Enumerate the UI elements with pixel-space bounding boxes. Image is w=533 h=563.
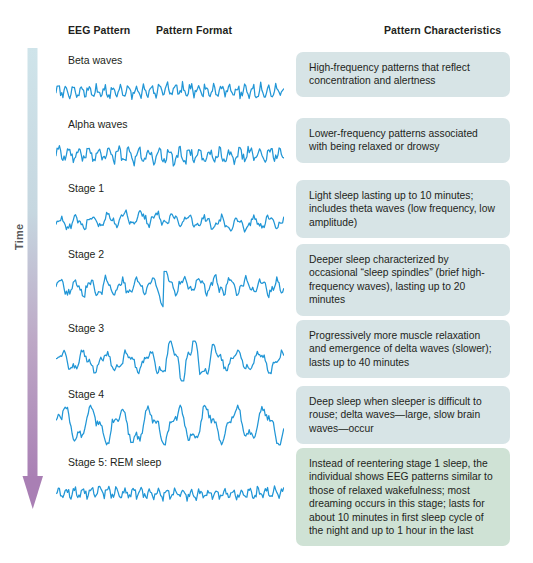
pattern-characteristics-box: Lower-frequency patterns associated with…: [296, 118, 510, 163]
stage-label: Alpha waves: [68, 118, 128, 130]
column-header-pattern-format: Pattern Format: [156, 24, 232, 36]
pattern-characteristics-box: Instead of reentering stage 1 sleep, the…: [296, 448, 510, 546]
pattern-characteristics-box: Progressively more muscle relaxation and…: [296, 320, 510, 378]
pattern-characteristics-box: Deeper sleep characterized by occasional…: [296, 244, 510, 316]
column-header-eeg-pattern: EEG Pattern: [68, 24, 130, 36]
pattern-characteristics-text: High-frequency patterns that reflect con…: [309, 61, 498, 88]
pattern-characteristics-text: Deeper sleep characterized by occasional…: [309, 253, 498, 307]
stage-label: Stage 4: [68, 388, 104, 400]
eeg-waveform-trace: [56, 340, 284, 382]
eeg-waveform-trace: [56, 134, 284, 176]
pattern-characteristics-box: Light sleep lasting up to 10 minutes; in…: [296, 180, 510, 238]
stage-label: Beta waves: [68, 54, 122, 66]
pattern-characteristics-text: Deep sleep when sleeper is difficult to …: [309, 395, 498, 435]
eeg-waveform-trace: [56, 70, 284, 112]
stage-label: Stage 3: [68, 322, 104, 334]
eeg-waveform-trace: [56, 404, 284, 446]
eeg-sleep-stages-figure: EEG Pattern Pattern Format Pattern Chara…: [0, 0, 533, 563]
stage-label: Stage 5: REM sleep: [68, 456, 161, 468]
stage-label: Stage 2: [68, 248, 104, 260]
pattern-characteristics-text: Light sleep lasting up to 10 minutes; in…: [309, 189, 498, 229]
pattern-characteristics-text: Lower-frequency patterns associated with…: [309, 127, 498, 154]
pattern-characteristics-text: Instead of reentering stage 1 sleep, the…: [309, 457, 498, 537]
pattern-characteristics-text: Progressively more muscle relaxation and…: [309, 329, 498, 369]
pattern-characteristics-box: High-frequency patterns that reflect con…: [296, 52, 510, 97]
pattern-characteristics-box: Deep sleep when sleeper is difficult to …: [296, 386, 510, 444]
eeg-waveform-trace: [56, 472, 284, 514]
eeg-waveform-trace: [56, 200, 284, 242]
stage-label: Stage 1: [68, 182, 104, 194]
eeg-waveform-trace: [56, 266, 284, 308]
column-header-pattern-characteristics: Pattern Characteristics: [384, 24, 501, 36]
